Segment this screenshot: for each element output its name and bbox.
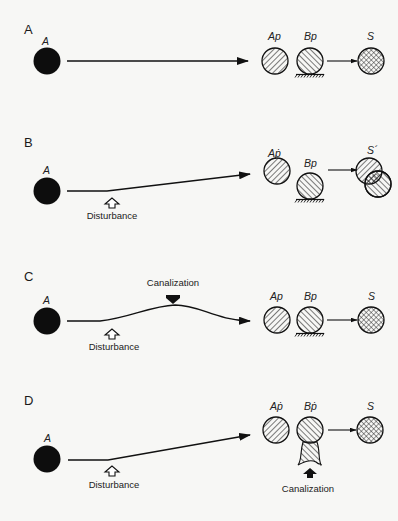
panel-letter: A xyxy=(24,22,33,37)
product-circle-ap xyxy=(263,417,289,443)
canalization-support-blob xyxy=(298,442,321,465)
product-circle-ap xyxy=(264,307,290,333)
start-label: A xyxy=(43,432,51,444)
start-circle xyxy=(34,48,61,75)
product-circle-bp xyxy=(297,307,323,333)
start-label: A xyxy=(42,294,50,306)
canalization-diagram: A A Ap Bp S B A Disturbance Aṗ Bp S´ C … xyxy=(0,0,398,521)
panel-d: D A Disturbance Aṗ Bṗ Canalization S xyxy=(24,393,383,494)
product-label-bp: Bp xyxy=(304,157,317,169)
product-label-ap: Aṗ xyxy=(267,147,281,159)
result-label: S xyxy=(367,400,374,412)
start-circle xyxy=(34,446,61,473)
result-label: S xyxy=(367,30,374,42)
product-label-bp: Bp xyxy=(304,30,317,42)
product-circle-bp xyxy=(297,417,323,443)
disturbance-label: Disturbance xyxy=(89,479,140,490)
product-label-bp: Bp xyxy=(304,290,317,302)
developmental-path-arrow xyxy=(67,174,250,191)
product-circle-ap xyxy=(264,158,290,184)
disturbance-arrow-icon xyxy=(105,329,119,339)
disturbance-arrow-icon xyxy=(105,466,119,476)
result-circle-s xyxy=(358,48,384,74)
canalization-label: Canalization xyxy=(147,277,199,288)
panel-letter: C xyxy=(24,269,33,284)
start-label: A xyxy=(41,35,49,47)
product-label-ap: Aṗ xyxy=(269,400,283,412)
start-label: A xyxy=(42,164,50,176)
panel-c: C A Canalization Disturbance Ap Bp S xyxy=(24,269,384,352)
product-circle-ap xyxy=(262,48,288,74)
developmental-path-arrow xyxy=(67,305,250,321)
panel-b: B A Disturbance Aṗ Bp S´ xyxy=(24,135,391,221)
ground-icon xyxy=(295,334,324,337)
canalization-arrow-icon xyxy=(166,295,180,304)
product-label-ap: Ap xyxy=(269,290,283,302)
result-label: S´ xyxy=(367,144,378,156)
developmental-path-arrow xyxy=(68,435,250,460)
product-label-ap: Ap xyxy=(267,30,281,42)
disturbance-label: Disturbance xyxy=(87,210,138,221)
start-circle xyxy=(34,178,61,205)
disturbance-label: Disturbance xyxy=(89,341,140,352)
result-label: S xyxy=(368,290,375,302)
canalization-label: Canalization xyxy=(282,483,334,494)
disturbance-arrow-icon xyxy=(105,198,119,208)
ground-icon xyxy=(295,200,324,203)
result-circle-s xyxy=(358,307,384,333)
product-circle-bp xyxy=(297,173,323,199)
product-label-bp: Bṗ xyxy=(304,400,317,412)
panel-letter: B xyxy=(24,135,33,150)
canalization-arrow-icon xyxy=(303,468,317,478)
ground-icon xyxy=(295,75,324,78)
panel-letter: D xyxy=(24,393,33,408)
panel-a: A A Ap Bp S xyxy=(24,22,384,78)
start-circle xyxy=(34,308,61,335)
result-circle-s xyxy=(357,417,383,443)
product-circle-bp xyxy=(297,48,323,74)
